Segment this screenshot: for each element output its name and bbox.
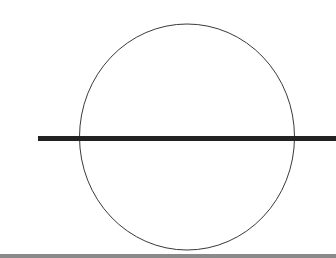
horizontal-line (38, 136, 336, 141)
diagram-canvas (0, 0, 336, 258)
bottom-border (0, 254, 336, 258)
